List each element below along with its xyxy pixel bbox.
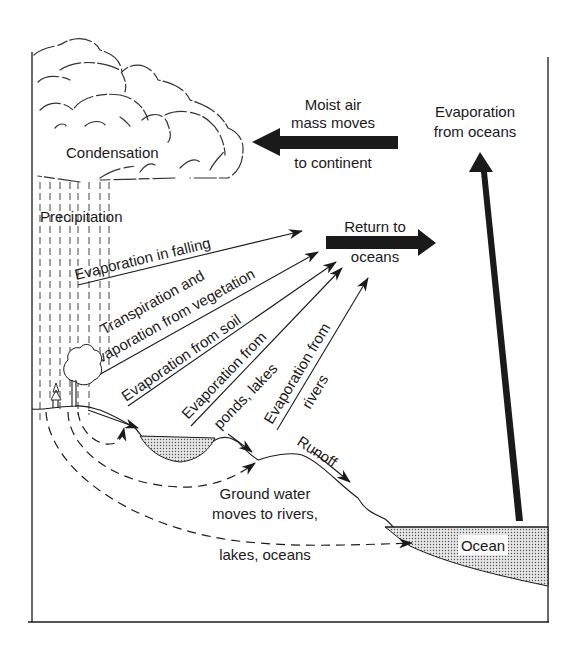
groundwater-label-2: moves to rivers, bbox=[212, 505, 318, 522]
moist-air-label-2: mass moves bbox=[291, 114, 375, 131]
evaporation-oceans-label-1: Evaporation bbox=[435, 103, 515, 120]
ocean-label: Ocean bbox=[461, 537, 505, 554]
tree-icon bbox=[64, 344, 102, 407]
groundwater-label-1: Ground water bbox=[220, 485, 311, 502]
evaporation-oceans-label-2: from oceans bbox=[434, 123, 517, 140]
precipitation-label: Precipitation bbox=[40, 208, 123, 225]
condensation-label: Condensation bbox=[66, 144, 159, 161]
moist-air-arrow bbox=[252, 128, 398, 156]
water-cycle-diagram: Condensation Precipitation Moist air mas… bbox=[0, 0, 577, 650]
moist-air-label-3: to continent bbox=[294, 154, 372, 171]
runoff-label: Runoff bbox=[294, 432, 341, 471]
groundwater-label-3: lakes, oceans bbox=[219, 546, 311, 563]
return-label-2: oceans bbox=[351, 248, 399, 265]
groundwater-flows bbox=[46, 412, 412, 545]
evaporation-oceans-arrow bbox=[469, 152, 523, 521]
return-label-1: Return to bbox=[344, 218, 406, 235]
moist-air-label-1: Moist air bbox=[305, 96, 362, 113]
